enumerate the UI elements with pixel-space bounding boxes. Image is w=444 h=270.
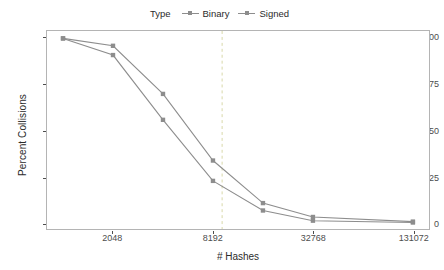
x-tick-label: 2048 [77, 233, 147, 243]
series-line [63, 38, 413, 222]
data-point [261, 201, 265, 205]
legend-item-signed[interactable]: Signed [238, 8, 289, 19]
legend-title: Type [150, 8, 171, 19]
x-tick-mark [414, 231, 415, 234]
data-point [161, 92, 165, 96]
line-point-key-icon [182, 8, 199, 19]
data-point [61, 36, 65, 40]
x-tick-mark [112, 231, 113, 234]
data-point [211, 179, 215, 183]
data-point [161, 118, 165, 122]
legend-label-binary: Binary [203, 8, 230, 19]
legend: Type Binary Signed [0, 4, 439, 22]
x-tick-label: 32768 [278, 233, 348, 243]
y-axis-title: Percent Collisions [14, 0, 30, 270]
data-point [111, 53, 115, 57]
x-tick-mark [213, 231, 214, 234]
data-point [311, 215, 315, 219]
data-point [261, 208, 265, 212]
x-axis-title: # Hashes [46, 248, 430, 264]
x-tick-label: 8192 [178, 233, 248, 243]
plot-panel [46, 30, 430, 230]
data-point [411, 219, 415, 223]
data-point [211, 158, 215, 162]
x-tick-mark [313, 231, 314, 234]
x-tick-label: 131072 [379, 233, 444, 243]
series-line [63, 38, 413, 221]
plot-area [47, 31, 429, 229]
data-point [111, 44, 115, 48]
line-point-key-icon [238, 8, 255, 19]
legend-item-binary[interactable]: Binary [182, 8, 230, 19]
legend-label-signed: Signed [259, 8, 289, 19]
series-binary [61, 36, 415, 224]
